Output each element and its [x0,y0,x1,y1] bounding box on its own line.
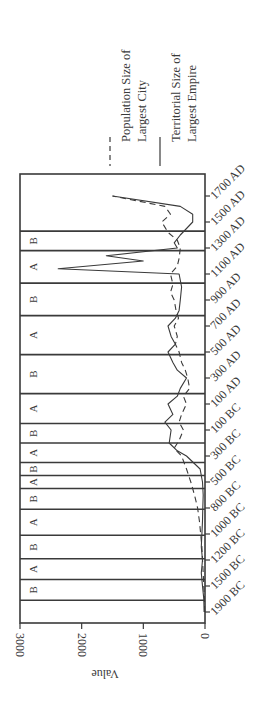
phase-label-b: B [27,586,39,593]
phase-label-b: B [27,465,39,472]
phase-label-b: B [27,430,39,437]
phase-label-a: A [27,263,39,271]
legend-label: Largest City [135,79,149,142]
phase-label-b: B [27,495,39,502]
legend-label: Population Size of [119,49,133,142]
legend: Population Size ofLargest CityTerritoria… [110,49,199,166]
phase-label-b: B [27,296,39,303]
value-tick-label: 1000 [136,633,150,657]
value-tick-label: 0 [198,633,212,639]
rotated-line-chart: BABABABABABABAB 1900 BC1500 BC1200 BC100… [0,0,270,712]
phase-label-a: A [27,478,39,486]
phase-label-a: A [27,565,39,573]
phase-label-a: A [27,518,39,526]
phase-label-a: A [27,449,39,457]
phase-label-a: A [27,331,39,339]
value-axis-label: Value [91,667,118,681]
phase-label-a: A [27,405,39,413]
legend-label: Largest Empire [185,64,199,142]
value-tick-label: 3000 [13,633,27,657]
value-tick-label: 2000 [75,633,89,657]
legend-label: Territorial Size of [169,52,183,142]
phase-label-b: B [27,237,39,244]
phase-label-b: B [27,370,39,377]
phase-label-b: B [27,543,39,550]
